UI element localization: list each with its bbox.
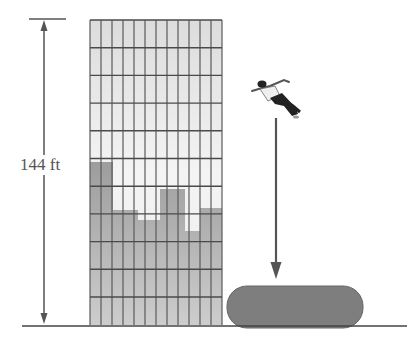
falling-person-icon xyxy=(252,80,300,119)
building xyxy=(90,20,222,325)
arrowhead-down-icon xyxy=(271,262,282,279)
height-label: 144 ft xyxy=(18,155,74,175)
air-cushion xyxy=(227,286,363,328)
up-arrowhead-icon xyxy=(41,20,48,31)
fall-direction-arrow xyxy=(271,118,282,279)
down-arrowhead-icon xyxy=(41,313,48,324)
